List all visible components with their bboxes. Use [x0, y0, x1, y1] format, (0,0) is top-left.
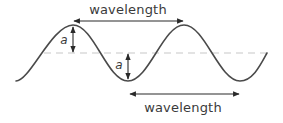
wavelength-label-top: wavelength: [89, 2, 167, 17]
wave-diagram: wavelength wavelength a a: [0, 0, 283, 123]
amplitude-label-peak: a: [60, 33, 67, 47]
amplitude-label-trough: a: [115, 58, 122, 72]
wavelength-label-bottom: wavelength: [144, 100, 222, 115]
